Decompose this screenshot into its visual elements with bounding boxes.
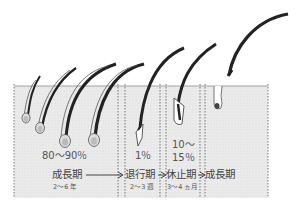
catagen-duration: 2〜3 週 [130, 184, 154, 191]
hair-cycle-diagram: 80〜90％ 成長期 2〜6 年 1％ 退行期 2〜3 週 10〜 15％ 休止… [0, 0, 300, 208]
anagen-percent: 80〜90％ [42, 151, 87, 161]
skin-layer [14, 86, 268, 198]
telogen-duration: 3〜4 ヵ月 [167, 184, 198, 191]
new-anagen-hair [214, 86, 222, 109]
catagen-percent: 1％ [135, 151, 151, 161]
telogen-percent-line1: 10〜 [172, 140, 195, 150]
anagen-label: 成長期 [52, 169, 82, 180]
catagen-label: 退行期 [125, 169, 155, 180]
telogen-percent-line2: 15％ [172, 153, 195, 163]
telogen-label: 休止期 [166, 169, 196, 180]
anagen-duration: 2〜6 年 [53, 184, 77, 191]
new-anagen-label: 成長期 [205, 169, 235, 180]
